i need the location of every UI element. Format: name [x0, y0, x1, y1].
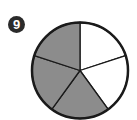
fraction-circle — [0, 0, 137, 120]
